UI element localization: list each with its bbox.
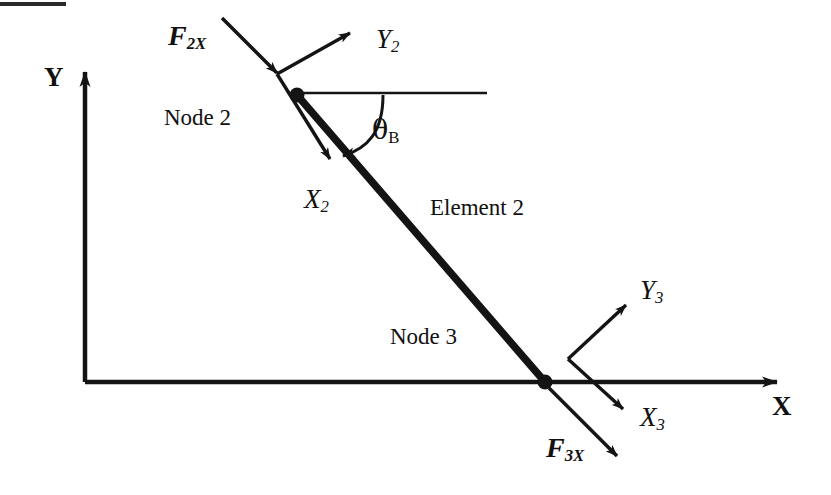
node-2-local-y-axis [277,33,350,74]
node-2-local-y-symbol: Y [376,24,391,54]
node-3-dot [538,375,553,390]
node-3-local-y-subscript: 3 [655,288,663,307]
node-2-local-x-label: X2 [304,186,329,215]
force-f3x-label: F3X [546,434,584,464]
node-2-local-y-subscript: 2 [391,37,399,56]
node-2-dot [290,88,305,103]
node-2-local-x-subscript: 2 [321,197,329,216]
node-3-local-frame [568,305,626,409]
node-3-local-y-axis [568,305,626,359]
theta-b-symbol: θ [372,114,388,145]
force-f2x-symbol: F [168,20,187,51]
node-3-local-y-symbol: Y [640,275,655,305]
force-f2x-arrow [222,18,277,73]
element-2-label: Element 2 [430,196,524,219]
theta-b-label: θB [372,116,399,147]
theta-b-subscript: B [388,128,399,147]
global-y-axis-label: Y [44,64,64,91]
force-f3x-subscript: 3X [565,446,585,465]
global-x-axis-label: X [772,393,792,420]
node-2-local-y-label: Y2 [376,26,399,55]
node-3-local-x-label: X3 [640,404,665,433]
node-3-label: Node 3 [390,325,457,348]
figure-canvas: Y X Node 2 Node 3 Element 2 F2X F3X Y2 X… [0,0,831,495]
node-3-local-x-subscript: 3 [657,415,665,434]
node-2-local-x-symbol: X [304,184,321,214]
force-f3x-symbol: F [546,432,565,463]
node-2-local-x-axis [277,74,330,159]
node-3-local-x-symbol: X [640,402,657,432]
node-2-label: Node 2 [164,106,231,129]
node-3-local-y-label: Y3 [640,277,663,306]
force-f2x-subscript: 2X [187,34,207,53]
diagram-svg [0,0,831,495]
force-f2x-label: F2X [168,22,206,52]
